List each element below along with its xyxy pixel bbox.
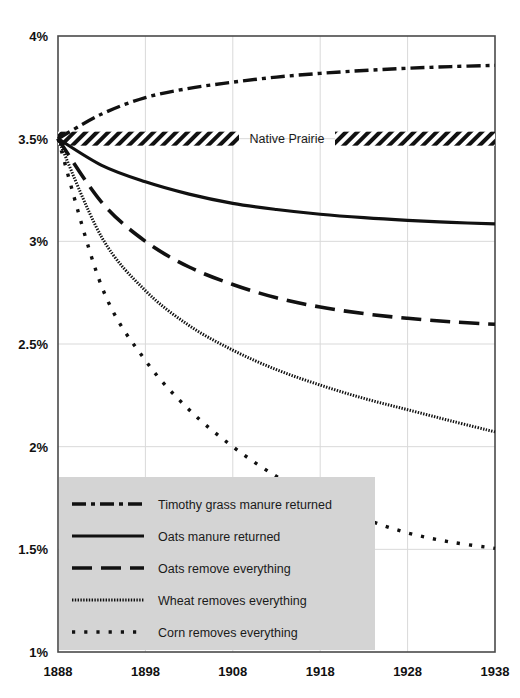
- native-prairie-band: Native Prairie: [58, 132, 495, 147]
- legend-label-0: Timothy grass manure returned: [158, 498, 332, 512]
- y-tick-label-3: 2.5%: [18, 337, 48, 352]
- legend[interactable]: Timothy grass manure returnedOats manure…: [59, 477, 375, 650]
- legend-label-3: Wheat removes everything: [158, 594, 307, 608]
- x-tick-label-4: 1928: [393, 664, 422, 679]
- x-tick-label-2: 1908: [218, 664, 247, 679]
- x-tick-label-0: 1888: [44, 664, 73, 679]
- hatch-segment-left: [58, 132, 239, 146]
- y-tick-label-6: 1%: [29, 645, 48, 660]
- chart-container: Native Prairie 4%3.5%3%2.5%2%1.5%1% 1888…: [0, 0, 520, 698]
- x-tick-label-3: 1918: [306, 664, 335, 679]
- x-tick-label-1: 1898: [131, 664, 160, 679]
- legend-label-2: Oats remove everything: [158, 562, 291, 576]
- y-tick-label-2: 3%: [29, 234, 48, 249]
- native-prairie-label: Native Prairie: [249, 132, 324, 146]
- y-tick-label-5: 1.5%: [18, 542, 48, 557]
- y-tick-label-4: 2%: [29, 440, 48, 455]
- x-tick-label-5: 1938: [481, 664, 510, 679]
- y-tick-label-1: 3.5%: [18, 132, 48, 147]
- legend-label-1: Oats manure returned: [158, 530, 280, 544]
- legend-label-4: Corn removes everything: [158, 626, 298, 640]
- hatch-segment-right: [335, 132, 495, 146]
- y-tick-label-0: 4%: [29, 29, 48, 44]
- line-chart: Native Prairie 4%3.5%3%2.5%2%1.5%1% 1888…: [0, 0, 520, 698]
